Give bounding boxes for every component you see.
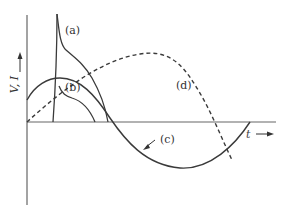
curve-d-label: (d) bbox=[176, 80, 192, 91]
x-axis-label: t bbox=[246, 128, 250, 141]
curve-a-left bbox=[53, 14, 57, 122]
y-axis-label: V, I bbox=[8, 76, 21, 93]
label-c-pointer bbox=[143, 140, 155, 150]
y-arrow-icon bbox=[18, 52, 23, 72]
t-arrow-icon bbox=[256, 132, 274, 137]
curve-c bbox=[27, 78, 250, 168]
diagram-canvas bbox=[0, 0, 289, 220]
curve-b-label: (b) bbox=[65, 82, 81, 93]
curve-d bbox=[27, 53, 232, 160]
curve-a-label: (a) bbox=[65, 25, 80, 36]
curve-c-label: (c) bbox=[160, 134, 175, 145]
